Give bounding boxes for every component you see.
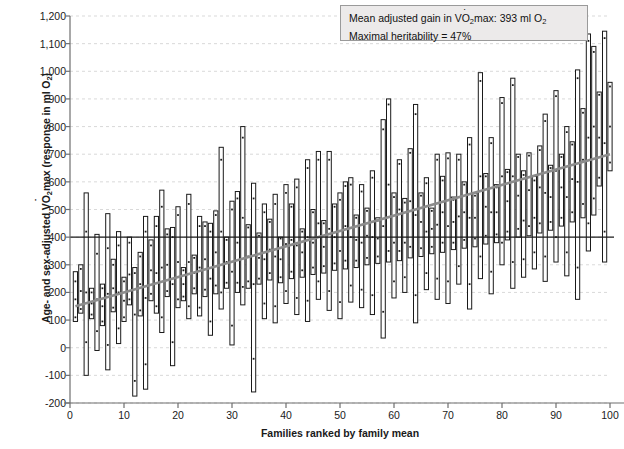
range-bar <box>117 232 121 344</box>
data-point <box>291 239 293 241</box>
data-point <box>85 292 87 294</box>
data-point <box>107 247 109 249</box>
data-point <box>609 162 611 164</box>
data-point <box>523 258 525 260</box>
data-point <box>112 264 114 266</box>
data-point <box>431 246 433 248</box>
range-bar <box>230 201 234 345</box>
data-point <box>237 242 239 244</box>
range-bar <box>252 183 256 392</box>
range-bar <box>484 174 488 244</box>
range-bar <box>262 204 266 319</box>
data-point <box>463 211 465 213</box>
range-bar <box>241 127 245 305</box>
data-point <box>215 214 217 216</box>
data-point <box>361 191 363 193</box>
data-point <box>339 199 341 201</box>
data-point <box>220 292 222 294</box>
data-point <box>382 128 384 130</box>
range-bar <box>354 215 358 268</box>
data-point <box>512 261 514 263</box>
range-bar <box>111 259 115 312</box>
data-point <box>539 222 541 224</box>
range-bar <box>160 190 164 332</box>
data-point <box>528 155 530 157</box>
data-point <box>447 280 449 282</box>
data-point <box>188 305 190 307</box>
data-point <box>215 285 217 287</box>
data-point <box>480 175 482 177</box>
data-point <box>458 216 460 218</box>
data-point <box>334 206 336 208</box>
data-point <box>598 137 600 139</box>
data-point <box>458 159 460 161</box>
range-bar <box>100 284 104 325</box>
data-point <box>107 293 109 295</box>
data-point <box>96 253 98 255</box>
data-point <box>242 217 244 219</box>
data-point <box>204 289 206 291</box>
data-point <box>96 330 98 332</box>
range-bar <box>408 149 412 258</box>
data-point <box>366 235 368 237</box>
data-point <box>161 267 163 269</box>
data-point <box>161 316 163 318</box>
data-point <box>528 189 530 191</box>
data-point <box>172 283 174 285</box>
data-point <box>129 298 131 300</box>
data-point <box>85 341 87 343</box>
data-point <box>312 242 314 244</box>
data-point <box>485 235 487 237</box>
data-point <box>512 84 514 86</box>
data-point <box>199 307 201 309</box>
data-point <box>264 211 266 213</box>
data-point <box>496 211 498 213</box>
data-point <box>409 246 411 248</box>
data-point <box>523 220 525 222</box>
data-point <box>129 274 131 276</box>
data-point <box>280 258 282 260</box>
data-point <box>393 196 395 198</box>
data-point <box>112 287 114 289</box>
range-bar <box>559 154 563 226</box>
range-bar <box>462 182 466 248</box>
data-point <box>177 214 179 216</box>
data-point <box>85 231 87 233</box>
data-point <box>377 256 379 258</box>
data-point <box>231 209 233 211</box>
range-bar <box>441 176 445 252</box>
range-bar <box>435 154 439 299</box>
data-point <box>215 251 217 253</box>
data-point <box>139 310 141 312</box>
data-point <box>582 112 584 114</box>
data-point <box>501 175 503 177</box>
range-bar <box>527 153 531 236</box>
data-point <box>193 257 195 259</box>
data-point <box>388 250 390 252</box>
range-bar <box>327 151 331 310</box>
data-point <box>571 178 573 180</box>
range-bar <box>586 34 590 251</box>
data-point <box>231 271 233 273</box>
data-point <box>323 265 325 267</box>
range-bar <box>505 169 509 239</box>
data-point <box>80 268 82 270</box>
data-point <box>501 102 503 104</box>
data-point <box>496 233 498 235</box>
data-point <box>593 126 595 128</box>
data-point <box>345 225 347 227</box>
data-point <box>134 272 136 274</box>
data-point <box>312 211 314 213</box>
range-bar <box>532 176 536 269</box>
data-point <box>431 228 433 230</box>
annotation-line-2: Maximal heritability = 47% <box>349 28 579 44</box>
range-bar <box>522 171 526 277</box>
data-point <box>598 94 600 96</box>
data-point <box>177 261 179 263</box>
data-point <box>453 221 455 223</box>
data-point <box>366 257 368 259</box>
data-point <box>172 341 174 343</box>
data-point <box>561 156 563 158</box>
data-point <box>550 167 552 169</box>
data-point <box>485 175 487 177</box>
